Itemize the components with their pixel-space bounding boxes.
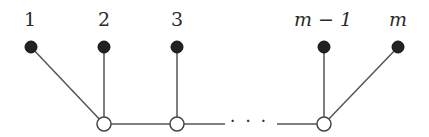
node-label-3: 3 <box>171 10 183 29</box>
node-label-2: 2 <box>98 10 110 29</box>
spine-node <box>317 117 331 131</box>
leaf-node-1 <box>25 41 37 53</box>
leaf-node-3 <box>171 41 183 53</box>
spine-node <box>170 117 184 131</box>
leaf-node-m <box>392 41 404 53</box>
node-label-1: 1 <box>24 10 36 29</box>
leaf-node-2 <box>98 41 110 53</box>
leaf-edge <box>324 47 398 124</box>
graph-diagram: 123m − 1m· · · <box>0 0 429 137</box>
ellipsis-text: · · · <box>230 112 269 130</box>
node-label-m-1: m − 1 <box>294 10 352 29</box>
leaf-edge <box>31 47 104 124</box>
node-label-m: m <box>389 10 407 29</box>
leaf-node-m-1 <box>318 41 330 53</box>
spine-node <box>97 117 111 131</box>
graph-canvas <box>0 0 429 137</box>
